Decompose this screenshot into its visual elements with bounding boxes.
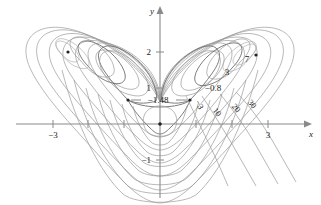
contour-inner-left-5 <box>56 39 89 69</box>
left-minimum-point <box>66 50 69 53</box>
label-7: 7 <box>245 54 250 64</box>
x-tick-label--3: −3 <box>48 130 58 140</box>
contour-label-line-10 <box>202 96 256 186</box>
right-saddle-point <box>188 98 191 101</box>
x-axis-label: x <box>308 129 313 139</box>
origin-point <box>158 122 162 126</box>
y-tick-label-2: 2 <box>147 47 152 57</box>
label-3: 3 <box>225 67 230 77</box>
x-axis-arrow <box>304 121 312 128</box>
contour-level-neg-1-48-lower <box>128 100 190 134</box>
label-10: 10 <box>211 105 224 118</box>
y-axis-arrow <box>157 6 164 14</box>
y-tick-label-1: 1 <box>147 83 152 93</box>
x-tick-label-3: 3 <box>266 130 271 140</box>
y-axis-label: y <box>149 6 154 16</box>
left-saddle-point <box>126 98 129 101</box>
label-neg-1-48: −1.48 <box>148 95 169 105</box>
right-minimum-point <box>254 53 257 56</box>
contour-plot-figure: −3 3 2 1 −1 x y −1.48 −0.8 −3 3 7 10 20 … <box>0 0 321 205</box>
y-tick-label--1: −1 <box>141 155 151 165</box>
label-neg-0-8: −0.8 <box>205 83 222 93</box>
label-30: 30 <box>246 97 259 110</box>
